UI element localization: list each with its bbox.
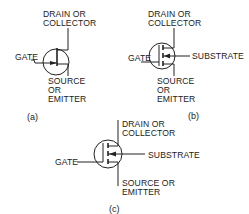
- substrate-arrow-icon: [164, 54, 170, 59]
- figure-a: DRAIN OR COLLECTOR GATE SOURCE OR EMITTE…: [15, 9, 96, 122]
- substrate-label-c: SUBSTRATE: [148, 150, 200, 160]
- substrate-arrow-icon: [109, 152, 116, 157]
- caption-a: (a): [27, 112, 38, 122]
- transistor-diagram: DRAIN OR COLLECTOR GATE SOURCE OR EMITTE…: [0, 0, 249, 214]
- mosfet-symbol-b: [141, 28, 190, 76]
- caption-c: (c): [109, 204, 120, 214]
- source-label-b-line3: EMITTER: [157, 94, 195, 104]
- substrate-label-b: SUBSTRATE: [192, 51, 244, 61]
- drain-label-b-line2: COLLECTOR: [148, 18, 201, 28]
- drain-label-c-line2: COLLECTOR: [122, 128, 175, 138]
- source-label-a-line3: EMITTER: [48, 94, 86, 104]
- figure-b: DRAIN OR COLLECTOR GATE SUBSTRATE SOURCE…: [128, 9, 244, 121]
- drain-label-a-line2: COLLECTOR: [43, 18, 96, 28]
- gate-arrow-icon: [50, 61, 57, 65]
- figure-c: DRAIN OR COLLECTOR GATE SUBSTRATE SOURCE…: [55, 119, 200, 214]
- gate-label-a: GATE: [15, 52, 38, 62]
- gate-label-b: GATE: [128, 53, 151, 63]
- caption-b: (b): [188, 111, 199, 121]
- transistor-envelope-circle: [43, 49, 69, 75]
- gate-label-c: GATE: [55, 157, 78, 167]
- source-label-c-line2: EMITTER: [122, 187, 160, 197]
